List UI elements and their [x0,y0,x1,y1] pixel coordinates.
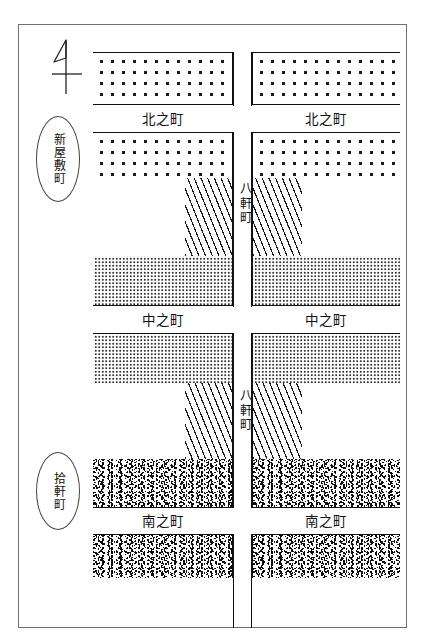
district-label-text: 新屋敷町 [51,133,65,185]
street-label-hachiken-cho-lower: 八軒町 [236,389,252,433]
block-speckle-r4-right [252,534,400,578]
street-label-naka-no-cho-right: 中之町 [252,314,400,328]
block-dots-r2-left [93,132,233,178]
block-hatch-r2-left [185,178,233,256]
district-label-text: 拾軒町 [51,472,65,511]
street-label-naka-no-cho-left: 中之町 [93,314,233,328]
street-label-minami-no-cho-left: 南之町 [93,515,233,529]
block-stipple-r2-left [93,256,233,306]
block-speckle-r3-left [93,459,233,508]
block-hatch-r3-right [252,383,302,459]
street-label-kita-no-cho-left: 北之町 [93,113,233,127]
block-dots-r2-right [252,132,400,178]
north-arrow-icon [44,36,90,98]
street-label-kita-no-cho-right: 北之町 [252,113,400,127]
block-stipple-r2-right [252,256,400,306]
block-dots-r1-right [252,52,400,105]
district-label-jikken: 拾軒町 [36,452,80,530]
block-hatch-r3-left [185,383,233,459]
block-hatch-r2-right [252,178,302,256]
map-canvas: 新屋敷町 拾軒町 北之町 北之町 八軒町 中之町 中之町 八軒町 南之町 南之町 [0,0,425,642]
vertical-road-left-casing [233,52,234,628]
street-label-minami-no-cho-right: 南之町 [252,515,400,529]
block-speckle-r3-right [252,459,400,508]
block-stipple-r3-right [252,333,400,383]
district-label-shinyashiki: 新屋敷町 [36,116,80,202]
block-stipple-r3-left [93,333,233,383]
block-speckle-r4-left [93,534,233,578]
block-dots-r1-left [93,52,233,105]
street-label-hachiken-cho-upper: 八軒町 [236,182,252,226]
